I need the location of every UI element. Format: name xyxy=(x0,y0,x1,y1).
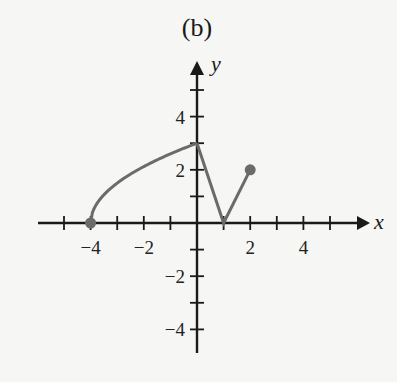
x-axis-label: x xyxy=(373,209,384,234)
y-tick-label: −2 xyxy=(165,266,185,287)
x-tick-label: −4 xyxy=(80,237,101,258)
closed-endpoint-dot xyxy=(85,218,96,229)
y-tick-label: 2 xyxy=(176,160,186,181)
chart: (b) x y −4−224 42−2−4 xyxy=(0,0,397,382)
x-tick-label: −2 xyxy=(134,237,154,258)
y-axis-label: y xyxy=(209,51,221,76)
axes: x y −4−224 42−2−4 xyxy=(38,51,384,353)
sqrt-arc xyxy=(91,143,197,223)
x-tick-label: 4 xyxy=(299,237,309,258)
closed-endpoint-dot xyxy=(245,164,256,175)
x-tick-label: 2 xyxy=(245,237,255,258)
plot-series xyxy=(85,143,256,228)
y-axis-arrow-icon xyxy=(190,61,204,75)
x-axis-arrow-icon xyxy=(357,216,370,230)
chart-title: (b) xyxy=(182,13,212,42)
y-tick-label: 4 xyxy=(176,107,186,128)
v-segments xyxy=(197,143,250,223)
y-tick-label: −4 xyxy=(165,319,186,340)
